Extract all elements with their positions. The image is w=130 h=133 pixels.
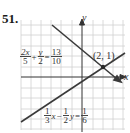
equation-2-label: 13 x − 12 y = 16 [44, 107, 88, 124]
fraction: 1310 [51, 48, 62, 65]
equation-1-label: 2x5 + y2 = 1310 [20, 48, 62, 65]
fraction: 12 [63, 107, 70, 124]
intersection-label: (2, 1) [93, 50, 115, 61]
y-axis-label: y [82, 12, 86, 23]
fraction: 16 [81, 107, 88, 124]
x-axis-label: x [124, 71, 128, 82]
fraction: y2 [38, 48, 44, 65]
fraction: 2x5 [20, 48, 31, 65]
intersection-point [101, 65, 105, 69]
fraction: 13 [44, 107, 51, 124]
